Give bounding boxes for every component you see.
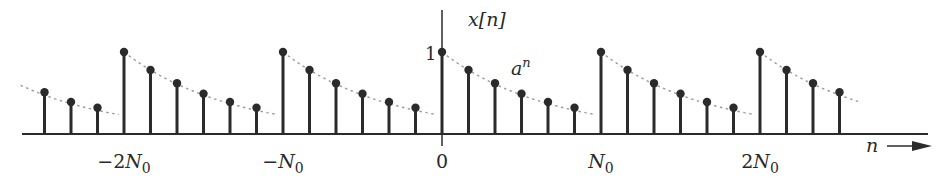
x-tick-label: −N0 <box>262 150 303 176</box>
stem-dot <box>650 79 658 87</box>
stem-dot <box>146 66 154 74</box>
stem-dot <box>491 79 499 87</box>
stem-dot <box>729 104 737 112</box>
x-axis-label: n <box>866 134 878 156</box>
stem-dot <box>67 98 75 106</box>
envelope-label: an <box>511 55 531 79</box>
envelope-curve <box>760 52 861 102</box>
stem-dot <box>809 79 817 87</box>
stem-dot <box>676 90 684 98</box>
x-tick-label: N0 <box>587 150 614 176</box>
stem-dot <box>517 90 525 98</box>
stem-dot <box>332 79 340 87</box>
y-tick-label-1: 1 <box>425 43 436 64</box>
stem-dot <box>199 90 207 98</box>
stem-dot <box>623 66 631 74</box>
y-axis-label: x[n] <box>468 8 506 30</box>
stem-dot <box>570 104 578 112</box>
x-tick-label: −2N0 <box>97 150 151 176</box>
x-tick-labels: −2N0−N00N02N0 <box>97 150 779 176</box>
stem-dot <box>173 79 181 87</box>
stem-dot <box>411 104 419 112</box>
x-axis-arrow-icon <box>887 141 932 151</box>
stem-dot <box>782 66 790 74</box>
stem-dot <box>40 88 48 96</box>
stem-dot <box>835 88 843 96</box>
stem-dot <box>756 48 764 56</box>
x-tick-label: 2N0 <box>741 150 779 176</box>
stem-dot <box>464 66 472 74</box>
stem-dot <box>252 104 260 112</box>
stem-dot <box>358 90 366 98</box>
x-tick-label: 0 <box>436 150 448 172</box>
stem-dot <box>93 104 101 112</box>
stem-dot <box>279 48 287 56</box>
stem-dot <box>120 48 128 56</box>
stem-dot <box>226 98 234 106</box>
stem-dot <box>305 66 313 74</box>
stem-dot <box>385 98 393 106</box>
stem-dot <box>597 48 605 56</box>
stem-dot <box>544 98 552 106</box>
stem-dot <box>703 98 711 106</box>
periodic-signal-stem-plot: x[n] 1 an −2N0−N00N02N0 n <box>0 0 950 186</box>
